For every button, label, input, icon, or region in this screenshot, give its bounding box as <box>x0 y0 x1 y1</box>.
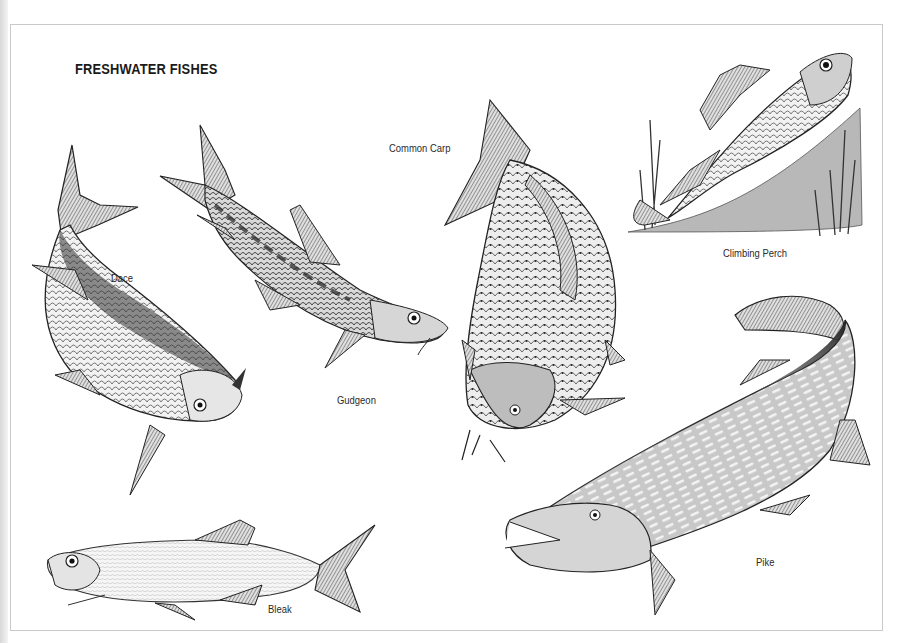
bleak-illustration <box>47 520 375 620</box>
common-carp-illustration <box>445 100 625 462</box>
label-bleak: Bleak <box>268 603 292 615</box>
label-dace: Dace <box>111 272 133 284</box>
fish-illustrations <box>0 0 902 643</box>
label-gudgeon: Gudgeon <box>337 394 376 406</box>
label-common-carp: Common Carp <box>389 142 450 154</box>
label-climbing-perch: Climbing Perch <box>723 247 787 259</box>
gudgeon-illustration <box>160 125 448 368</box>
climbing-perch-illustration <box>628 53 862 236</box>
plate-title: FRESHWATER FISHES <box>75 61 217 77</box>
label-pike: Pike <box>756 556 774 568</box>
